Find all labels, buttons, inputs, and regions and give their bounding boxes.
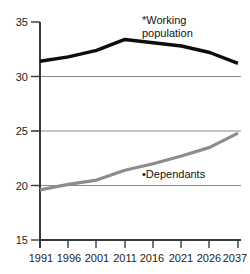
x-tick-label-1996: 1996 xyxy=(57,252,81,264)
series-line-dependants xyxy=(40,133,238,190)
x-tick-labels: 1991 1996 2001 2011 2016 2021 2026 2037 xyxy=(29,252,247,264)
x-tick-label-2001: 2001 xyxy=(85,252,109,264)
x-tick-marks xyxy=(40,240,238,248)
x-tick-label-2021: 2021 xyxy=(169,252,193,264)
dependants-label: •Dependants xyxy=(142,168,206,180)
x-tick-label-2026: 2026 xyxy=(197,252,221,264)
series-annotations: *Working population •Dependants xyxy=(142,14,206,180)
chart-container: 35 30 25 20 15 1991 1996 2001 2011 2016 … xyxy=(0,0,250,274)
y-tick-labels: 35 30 25 20 15 xyxy=(16,16,28,246)
y-tick-label-15: 15 xyxy=(16,234,28,246)
x-tick-label-1991: 1991 xyxy=(29,252,53,264)
working-population-label-line1: *Working xyxy=(142,14,186,26)
y-tick-label-25: 25 xyxy=(16,125,28,137)
x-tick-label-2011: 2011 xyxy=(113,252,137,264)
line-chart: 35 30 25 20 15 1991 1996 2001 2011 2016 … xyxy=(0,0,250,274)
y-tick-label-35: 35 xyxy=(16,16,28,28)
y-tick-label-20: 20 xyxy=(16,180,28,192)
x-tick-label-2037: 2037 xyxy=(223,252,247,264)
y-tick-marks xyxy=(31,22,40,240)
x-tick-label-2016: 2016 xyxy=(140,252,164,264)
series-line-working-population xyxy=(40,39,238,63)
y-tick-label-30: 30 xyxy=(16,71,28,83)
working-population-label-line2: population xyxy=(142,27,193,39)
